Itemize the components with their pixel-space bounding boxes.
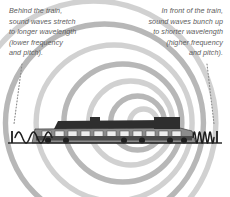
caption-front-train: In front of the train, sound waves bunch… [119, 6, 223, 59]
locomotive-cab [154, 117, 180, 129]
locomotive-stack [90, 117, 100, 122]
caption-behind-train: Behind the train, sound waves stretch to… [9, 6, 109, 59]
waveform-short-wavelength [193, 132, 214, 143]
locomotive [32, 117, 196, 144]
doppler-effect-figure: Behind the train, sound waves stretch to… [0, 0, 230, 197]
